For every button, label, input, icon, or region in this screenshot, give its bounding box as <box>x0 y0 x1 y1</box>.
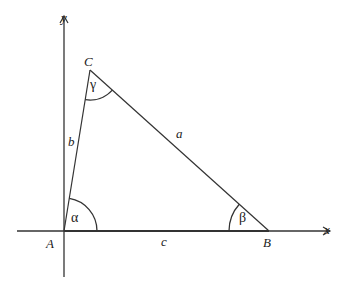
vertex-b-label: B <box>263 236 271 249</box>
angle-beta-label: β <box>239 211 246 225</box>
angle-beta-arc <box>229 204 239 231</box>
angle-gamma-label: γ <box>90 78 96 92</box>
y-axis-label: y <box>61 11 67 24</box>
side-c-label: c <box>161 235 167 248</box>
vertex-c-label: C <box>84 55 93 68</box>
side-b-label: b <box>68 135 75 148</box>
vertex-a-label: A <box>46 237 54 250</box>
side-a <box>90 70 269 231</box>
angle-alpha-label: α <box>71 211 78 225</box>
side-a-label: a <box>176 127 183 140</box>
x-axis-label: x <box>324 223 330 236</box>
triangle-diagram: y x C A B b a c α β γ <box>0 0 341 290</box>
